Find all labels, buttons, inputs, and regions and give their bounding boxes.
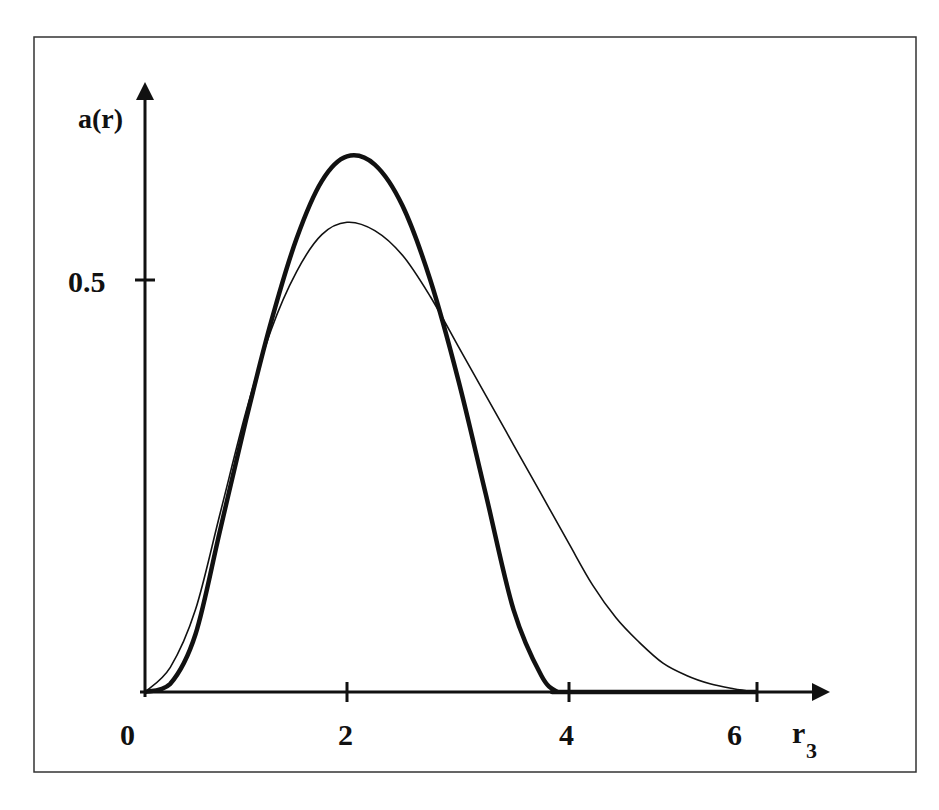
x-axis-label-subscript: 3 (806, 738, 817, 763)
chart-figure: a(r) 0.5 0 2 4 6 r 3 (0, 0, 939, 810)
series-layer (145, 155, 757, 692)
y-tick-label-0.5: 0.5 (68, 265, 106, 298)
y-axis (135, 82, 155, 697)
x-tick-label-2: 2 (338, 718, 353, 751)
x-axis-arrow-icon (812, 683, 830, 701)
x-axis-label: r (792, 716, 805, 749)
chart-frame (34, 37, 916, 772)
y-axis-arrow-icon (136, 82, 154, 100)
y-axis-label: a(r) (78, 103, 123, 134)
x-tick-label-4: 4 (559, 718, 574, 751)
x-tick-label-6: 6 (727, 718, 742, 751)
x-tick-label-0: 0 (120, 718, 135, 751)
bold-curve (145, 155, 757, 692)
